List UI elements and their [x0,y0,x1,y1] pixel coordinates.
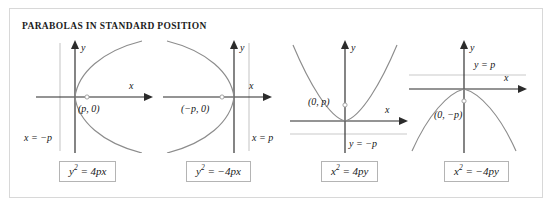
figure-title: PARABOLAS IN STANDARD POSITION [22,21,207,31]
equation-exponent: 2 [201,163,205,172]
x-axis-arrowhead [518,85,527,93]
equation-box-parabola-down: x2 = −4py [444,161,509,182]
x-axis-label: x [128,80,134,91]
panel-parabola-left: x y (−p, 0) x = p [153,35,285,153]
equation-rhs: = −4px [207,165,240,177]
y-axis-arrowhead [230,40,238,49]
x-axis-label: x [503,72,509,83]
focus-point [220,95,224,99]
panel-parabola-up: x y (0, p) y = −p [287,35,419,153]
equation-box-parabola-up: x2 = 4py [321,161,378,182]
x-axis-arrowhead [144,93,153,101]
y-axis-arrowhead [341,40,349,49]
focus-point [462,99,466,103]
y-axis-label: y [80,42,86,53]
directrix-label: x = −p [23,132,52,143]
focus-point [343,103,347,107]
focus-label: (0, p) [308,96,330,108]
x-axis-arrowhead [263,93,272,101]
equation-exponent: 2 [74,163,78,172]
directrix-label: x = p [251,132,273,143]
equation-exponent: 2 [459,163,463,172]
panel-parabola-right: x y (p, 0) x = −p [22,35,154,153]
equation-box-parabola-right: y2 = 4px [59,161,116,182]
figure-container: PARABOLAS IN STANDARD POSITION x y (p, 0… [9,8,543,198]
equation-box-parabola-left: y2 = −4px [186,161,251,182]
focus-label: (p, 0) [78,103,100,115]
directrix-label: y = p [473,59,495,70]
focus-label: (−p, 0) [181,103,210,115]
focus-label: (0, −p) [434,109,463,121]
directrix-label: y = −p [348,138,377,149]
y-axis-label: y [350,42,356,53]
focus-point [85,95,89,99]
y-axis-arrowhead [71,40,79,49]
equation-rhs: = 4py [342,165,368,177]
x-axis-label: x [248,80,254,91]
x-axis-label: x [384,104,390,115]
y-axis-label: y [239,42,245,53]
panel-parabola-down: x y (0, −p) y = p [406,35,538,153]
equation-exponent: 2 [336,163,340,172]
equation-rhs: = −4py [465,165,498,177]
y-axis-label: y [469,42,475,53]
equation-rhs: = 4px [80,165,106,177]
y-axis-arrowhead [460,40,468,49]
